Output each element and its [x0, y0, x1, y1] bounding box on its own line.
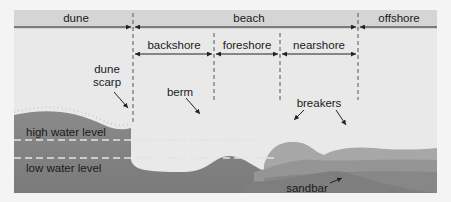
label-sandbar: sandbar [286, 182, 328, 193]
berm-pointer [186, 98, 200, 114]
dune-scarp-pointer [114, 92, 128, 108]
zone-label-beach: beach [233, 12, 264, 24]
label-dune-scarp-line1: dune [94, 63, 120, 75]
label-low-water-level: low water level [26, 162, 101, 174]
zone-label-offshore: offshore [378, 12, 419, 24]
label-high-water-level: high water level [26, 126, 106, 138]
breakers-pointer-left [294, 110, 304, 120]
label-dune-scarp-line2: scarp [93, 76, 121, 88]
beach-profile-diagram: dune beach offshore backshore foreshore … [14, 10, 437, 193]
breakers-pointer-right [336, 110, 346, 125]
zone-label-backshore: backshore [147, 39, 200, 51]
zone-label-foreshore: foreshore [223, 39, 272, 51]
label-breakers: breakers [297, 97, 342, 109]
label-berm: berm [167, 86, 193, 98]
zone-label-nearshore: nearshore [293, 39, 345, 51]
zone-label-dune: dune [63, 12, 89, 24]
